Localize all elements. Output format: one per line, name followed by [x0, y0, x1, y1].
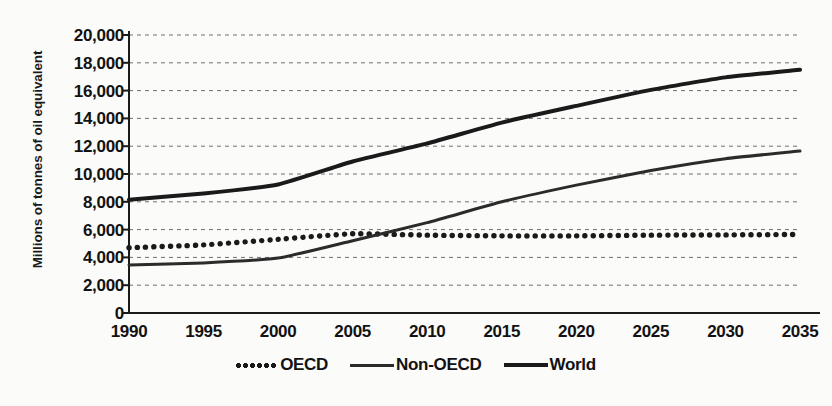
- plot-area: [0, 0, 832, 406]
- x-axis-tick-label: 2010: [397, 322, 457, 342]
- legend-item-non-oecd[interactable]: Non-OECD: [350, 355, 481, 375]
- x-axis-tick-label: 2015: [472, 322, 532, 342]
- legend-label: World: [550, 355, 596, 375]
- x-axis-tick-label: 2020: [546, 322, 606, 342]
- series-line-non-oecd: [129, 151, 800, 265]
- legend-item-world[interactable]: World: [504, 355, 596, 375]
- legend-item-oecd[interactable]: OECD: [236, 355, 328, 375]
- legend-swatch-solid-thin-icon: [350, 359, 394, 371]
- legend-swatch-dotted-icon: [236, 359, 278, 371]
- energy-demand-line-chart: Millions of tonnes of oil equivalent 02,…: [0, 0, 832, 406]
- series-line-oecd: [129, 234, 800, 248]
- x-axis-tick-label: 2025: [621, 322, 681, 342]
- x-axis-tick-label: 1990: [99, 322, 159, 342]
- chart-legend: OECDNon-OECDWorld: [0, 355, 832, 375]
- legend-label: OECD: [280, 355, 328, 375]
- x-axis-tick-label: 2000: [248, 322, 308, 342]
- x-axis-tick-label: 2030: [695, 322, 755, 342]
- legend-label: Non-OECD: [396, 355, 481, 375]
- x-axis-tick-label: 2005: [323, 322, 383, 342]
- series-line-world: [129, 70, 800, 200]
- x-axis-tick-label: 1995: [174, 322, 234, 342]
- legend-swatch-solid-thick-icon: [504, 359, 548, 371]
- x-axis-tick-label: 2035: [770, 322, 830, 342]
